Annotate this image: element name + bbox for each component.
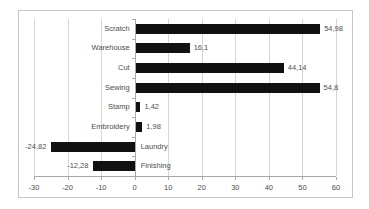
bar-laundry	[51, 142, 134, 152]
value-axis-tick	[101, 177, 102, 180]
bar-chart-image: -30-20-100102030405060Scratch54,98Wareho…	[0, 0, 369, 209]
bar-warehouse	[136, 43, 190, 53]
bar-embroidery	[136, 122, 143, 132]
value-label: -24,82	[25, 142, 46, 152]
plot-area: -30-20-100102030405060Scratch54,98Wareho…	[34, 19, 336, 176]
major-gridline	[269, 19, 270, 176]
value-axis-tick	[168, 177, 169, 180]
value-label: 44,14	[288, 63, 307, 73]
value-axis-tick	[135, 177, 136, 180]
value-axis-tick-label: -20	[62, 183, 73, 192]
bar-scratch	[136, 24, 320, 34]
category-label: Finishing	[141, 161, 171, 171]
value-axis-tick-label: 30	[231, 183, 239, 192]
category-label: Sewing	[105, 83, 130, 93]
category-axis-tick	[132, 98, 135, 99]
value-axis-tick	[269, 177, 270, 180]
value-label: 1,42	[144, 102, 159, 112]
category-axis-tick	[132, 137, 135, 138]
bar-finishing	[93, 161, 134, 171]
value-axis-tick	[235, 177, 236, 180]
major-gridline	[34, 19, 35, 176]
value-axis-line	[34, 176, 336, 177]
value-axis-tick	[34, 177, 35, 180]
value-label: -12,28	[67, 161, 88, 171]
category-axis-tick	[132, 39, 135, 40]
value-label: 54,98	[324, 24, 343, 34]
category-axis-tick	[132, 78, 135, 79]
category-label: Warehouse	[92, 43, 130, 53]
category-axis-tick	[132, 117, 135, 118]
value-label: 54,8	[324, 83, 339, 93]
value-axis-tick-label: -10	[96, 183, 107, 192]
value-axis-tick	[202, 177, 203, 180]
value-axis-tick-label: -30	[29, 183, 40, 192]
value-axis-tick-label: 50	[298, 183, 306, 192]
chart-frame: -30-20-100102030405060Scratch54,98Wareho…	[18, 10, 353, 198]
major-gridline	[302, 19, 303, 176]
value-axis-tick-label: 60	[332, 183, 340, 192]
category-axis-tick	[132, 156, 135, 157]
value-axis-tick	[336, 177, 337, 180]
category-label: Laundry	[141, 142, 168, 152]
value-label: 16,1	[194, 43, 209, 53]
value-axis-tick-label: 40	[265, 183, 273, 192]
category-label: Stamp	[108, 102, 130, 112]
value-axis-tick-label: 20	[198, 183, 206, 192]
category-label: Scratch	[104, 24, 129, 34]
major-gridline	[235, 19, 236, 176]
major-gridline	[336, 19, 337, 176]
value-axis-tick	[68, 177, 69, 180]
value-label: 1,98	[146, 122, 161, 132]
bar-cut	[136, 63, 284, 73]
value-axis-tick-label: 10	[164, 183, 172, 192]
category-label: Embroidery	[91, 122, 129, 132]
value-axis-tick	[302, 177, 303, 180]
bar-sewing	[136, 83, 320, 93]
bar-stamp	[136, 102, 141, 112]
value-axis-tick-label: 0	[133, 183, 137, 192]
major-gridline	[68, 19, 69, 176]
category-axis-tick	[132, 19, 135, 20]
category-axis-tick	[132, 58, 135, 59]
category-label: Cut	[118, 63, 130, 73]
